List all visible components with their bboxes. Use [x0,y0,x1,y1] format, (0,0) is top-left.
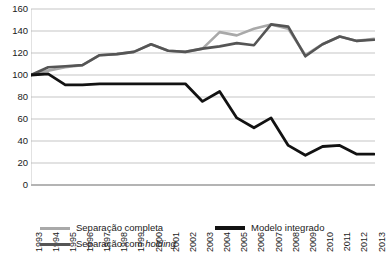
y-tick-80: 80 [0,92,28,102]
figure-caption [58,252,320,260]
legend-item-1[interactable]: Separação completa [40,223,163,233]
legend-swatch-icon-1 [40,227,70,230]
legend-item-2[interactable]: Modelo integrado [215,223,324,233]
legend-label-2: Modelo integrado [251,223,324,233]
y-tick-160: 160 [0,4,28,14]
series-line-3 [31,24,374,75]
legend-swatch-icon-2 [215,226,245,230]
legend-label-3: Separação com holding [76,239,176,249]
y-tick-120: 120 [0,48,28,58]
legend-label-1: Separação completa [76,223,163,233]
y-tick-40: 40 [0,136,28,146]
plot-area: 160140120100806040200 [0,0,378,196]
legend-label-italic-3: holding [145,238,176,249]
y-tick-100: 100 [0,70,28,80]
y-tick-60: 60 [0,114,28,124]
y-tick-20: 20 [0,158,28,168]
legend-item-3[interactable]: Separação com holding [40,239,176,249]
x-tick-2013: 2013 [378,232,387,252]
y-tick-0: 0 [0,180,28,190]
series-lines [31,0,375,190]
legend-swatch-icon-3 [40,243,70,246]
y-axis-tick-labels: 160140120100806040200 [0,0,28,190]
chart-legend: Separação completaModelo integradoSepara… [0,223,378,255]
y-tick-140: 140 [0,26,28,36]
series-line-2 [31,74,374,155]
